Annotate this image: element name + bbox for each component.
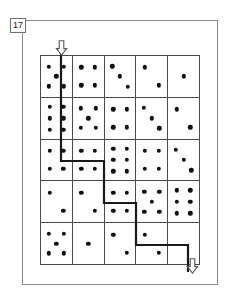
domino-pip [157,126,161,130]
domino-pip [62,232,66,236]
domino-pip [188,200,192,204]
domino-pip [188,188,192,192]
domino-cell [73,181,105,223]
domino-pip [62,84,66,88]
domino-cell [41,56,73,98]
domino-cell [136,223,168,265]
domino-cell [136,140,168,182]
domino-pip [47,149,51,153]
domino-pip [86,241,90,245]
domino-cell [136,56,168,98]
exit-arrow [186,258,199,278]
domino-pip [111,146,115,150]
domino-cell [73,56,105,98]
domino-pip [62,64,66,68]
domino-cell [73,98,105,140]
domino-cell [41,140,73,182]
domino-cell [73,223,105,265]
domino-pip [142,209,146,213]
domino-pip [93,126,97,130]
domino-cell [136,181,168,223]
domino-pip [142,106,146,110]
domino-pip [61,209,65,213]
domino-pip [111,125,115,129]
domino-pip [181,74,185,78]
domino-pip [111,232,115,236]
domino-pip [79,83,83,87]
domino-grid [40,55,200,265]
domino-pip [150,116,154,120]
domino-pip [47,167,51,171]
domino-pip [54,241,58,245]
domino-pip [47,116,51,120]
domino-pip [111,158,115,162]
domino-pip [175,211,179,215]
domino-pip [47,251,51,255]
domino-cell [73,140,105,182]
domino-cell [41,181,73,223]
domino-pip [157,190,161,194]
domino-pip [157,209,161,213]
domino-cell [41,223,73,265]
domino-pip [188,125,192,129]
domino-pip [188,211,192,215]
domino-pip [125,146,129,150]
domino-pip [61,127,65,131]
domino-pip [47,232,51,236]
domino-pip [143,232,147,236]
domino-pip [125,250,129,254]
domino-cell [168,140,200,182]
domino-pip [110,64,114,68]
domino-pip [125,125,129,129]
domino-cell [105,98,137,140]
domino-pip [175,188,179,192]
domino-pip [150,200,154,204]
domino-pip [93,149,97,153]
domino-pip [47,84,51,88]
domino-pip [93,209,97,213]
domino-pip [79,167,83,171]
problem-number-box: 17 [10,18,26,33]
domino-pip [142,190,146,194]
domino-pip [125,191,129,195]
domino-cell [105,56,137,98]
domino-pip [156,167,160,171]
domino-cell [168,56,200,98]
domino-pip [143,167,147,171]
domino-pip [156,250,160,254]
problem-number-label: 17 [13,21,23,30]
domino-pip [111,209,115,213]
domino-pip [93,65,97,69]
domino-pip [79,106,83,110]
domino-pip [47,127,51,131]
domino-pip [111,107,115,111]
domino-pip [181,158,185,162]
domino-pip [143,65,147,69]
domino-cell [41,98,73,140]
domino-pip [79,149,83,153]
domino-pip [125,169,129,173]
domino-cell [168,98,200,140]
domino-pip [93,167,97,171]
domino-pip [61,105,65,109]
domino-pip [174,148,178,152]
domino-pip [79,65,83,69]
domino-pip [79,126,83,130]
domino-pip [47,64,51,68]
domino-pip [47,191,51,195]
domino-pip [61,167,65,171]
domino-puzzle-figure: 17 [0,0,229,301]
domino-cell [105,181,137,223]
domino-pip [54,74,58,78]
domino-pip [61,149,65,153]
domino-pip [118,74,122,78]
domino-pip [175,200,179,204]
domino-pip [93,83,97,87]
domino-pip [62,251,66,255]
domino-pip [47,105,51,109]
domino-pip [125,209,129,213]
domino-pip [111,191,115,195]
domino-pip [175,107,179,111]
domino-pip [93,106,97,110]
domino-pip [189,168,193,172]
